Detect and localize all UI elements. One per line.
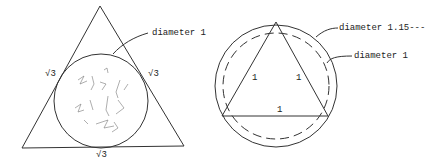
right-outer-circle	[215, 25, 337, 147]
outer-label-leader	[316, 28, 338, 37]
left-inscribed-circle	[54, 54, 148, 148]
right-triangle	[222, 22, 328, 116]
outer-circle-diameter-label: diameter 1.15---	[339, 23, 425, 33]
bottom-side-label: √3	[96, 150, 107, 160]
dashed-label-leader	[327, 56, 352, 63]
right-side-label: √3	[148, 69, 159, 79]
triangle-right-side-label: 1	[296, 73, 301, 83]
triangle-base-label: 1	[277, 105, 282, 115]
circle-diameter-label: diameter 1	[152, 28, 206, 38]
right-figure	[215, 22, 352, 147]
left-side-label: √3	[45, 69, 56, 79]
scribble	[75, 68, 128, 132]
triangle-left-side-label: 1	[252, 73, 257, 83]
dashed-circle-diameter-label: diameter 1	[354, 51, 408, 61]
